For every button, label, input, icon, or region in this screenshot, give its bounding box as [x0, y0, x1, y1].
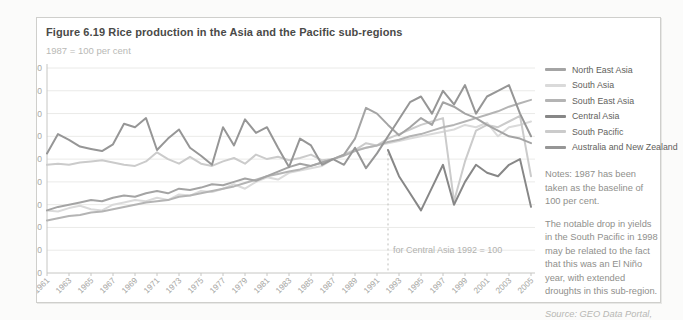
figure-subtitle: 1987 = 100 per cent — [46, 45, 131, 56]
x-tick-label-1995: 1995 — [405, 275, 425, 295]
legend-item-south-east-asia: South East Asia — [545, 93, 657, 109]
legend-item-south-pacific: South Pacific — [545, 124, 657, 140]
x-tick-label-2003: 2003 — [493, 275, 513, 295]
source-text: Source: GEO Data Portal, compiled from F… — [545, 308, 661, 320]
legend-item-south-asia: South Asia — [545, 78, 657, 94]
legend-swatch-line — [545, 99, 566, 102]
legend-swatch-line — [545, 115, 566, 118]
x-tick-label-1993: 1993 — [383, 275, 403, 295]
x-tick-label-1965: 1965 — [75, 275, 95, 295]
figure-title: Figure 6.19 Rice production in the Asia … — [46, 26, 403, 38]
legend-item-australia-and-new-zealand: Australia and New Zealand — [545, 140, 657, 156]
y-tick-label-60: 60 — [37, 200, 42, 210]
y-tick-label-180: 180 — [37, 63, 42, 73]
y-tick-label-40: 40 — [37, 222, 42, 232]
legend-swatch-line — [545, 68, 566, 71]
notes-block: Notes: 1987 has been taken as the baseli… — [545, 168, 661, 320]
legend-label: North East Asia — [566, 65, 633, 75]
legend-label: South East Asia — [566, 96, 634, 106]
y-tick-label-160: 160 — [37, 86, 42, 96]
legend-swatch-line — [545, 146, 566, 149]
x-tick-label-1973: 1973 — [163, 275, 183, 295]
x-tick-label-1999: 1999 — [449, 275, 469, 295]
y-tick-label-0: 0 — [37, 268, 42, 278]
page: 0204060801001201401601801961196319651967… — [0, 0, 683, 320]
x-tick-label-1991: 1991 — [361, 275, 381, 295]
x-tick-label-1975: 1975 — [185, 275, 205, 295]
x-tick-label-1983: 1983 — [273, 275, 293, 295]
x-tick-label-2005: 2005 — [515, 275, 535, 295]
figure-panel: 0204060801001201401601801961196319651967… — [36, 17, 661, 303]
x-tick-label-1979: 1979 — [229, 275, 249, 295]
x-tick-label-1997: 1997 — [427, 275, 447, 295]
legend-item-central-asia: Central Asia — [545, 109, 657, 125]
x-tick-label-1981: 1981 — [251, 275, 271, 295]
x-tick-label-1963: 1963 — [53, 275, 73, 295]
x-tick-label-1961: 1961 — [37, 275, 52, 295]
y-tick-label-20: 20 — [37, 245, 42, 255]
chart-legend: North East AsiaSouth AsiaSouth East Asia… — [545, 62, 657, 155]
central-asia-annotation: for Central Asia 1992 = 100 — [393, 245, 502, 255]
legend-swatch-line — [545, 84, 566, 87]
x-tick-label-1985: 1985 — [295, 275, 315, 295]
legend-label: South Pacific — [566, 127, 623, 137]
y-tick-label-140: 140 — [37, 109, 42, 119]
note-baseline: Notes: 1987 has been taken as the baseli… — [545, 168, 661, 209]
x-tick-label-1989: 1989 — [339, 275, 359, 295]
legend-label: South Asia — [566, 80, 614, 90]
x-tick-label-1969: 1969 — [119, 275, 139, 295]
x-tick-label-1977: 1977 — [207, 275, 227, 295]
x-tick-label-2001: 2001 — [471, 275, 491, 295]
x-tick-label-1971: 1971 — [141, 275, 161, 295]
legend-item-north-east-asia: North East Asia — [545, 62, 657, 78]
note-south-pacific: The notable drop in yields in the South … — [545, 218, 661, 299]
legend-swatch-line — [545, 130, 566, 133]
legend-label: Central Asia — [566, 111, 619, 121]
y-tick-label-100: 100 — [37, 154, 42, 164]
y-tick-label-120: 120 — [37, 131, 42, 141]
legend-label: Australia and New Zealand — [566, 142, 678, 152]
x-tick-label-1967: 1967 — [97, 275, 117, 295]
x-tick-label-1987: 1987 — [317, 275, 337, 295]
y-tick-label-80: 80 — [37, 177, 42, 187]
